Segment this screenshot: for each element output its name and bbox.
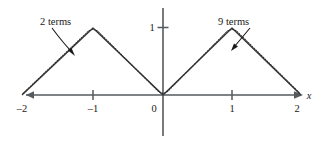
x-axis-tick-label-minus-one: –1	[87, 103, 99, 114]
x-axis-tick-label-two: 2	[294, 103, 299, 114]
fourier-approximation-wave	[23, 30, 300, 94]
nine-terms-arrowhead	[231, 44, 238, 52]
two-terms-arrow-line	[52, 28, 72, 52]
x-axis-left-arrowhead	[26, 91, 34, 99]
x-axis-variable-label: x	[306, 90, 312, 101]
annotation-two-terms	[52, 28, 75, 56]
y-axis-tick-label-one: 1	[149, 22, 154, 33]
exact-triangular-wave	[22, 28, 301, 95]
x-axis-tick-label-minus-two: –2	[16, 103, 28, 114]
x-axis-tick-label-one: 1	[229, 103, 234, 114]
annotation-nine-terms	[231, 28, 250, 51]
axes-group	[26, 8, 303, 136]
annotation-label-nine-terms: 9 terms	[218, 16, 249, 27]
annotation-label-two-terms: 2 terms	[40, 16, 71, 27]
fourier-triangular-wave-figure: 2 terms 9 terms 1 –2 –1 0 1 2 x	[0, 0, 319, 142]
x-axis-tick-label-zero: 0	[151, 103, 156, 114]
